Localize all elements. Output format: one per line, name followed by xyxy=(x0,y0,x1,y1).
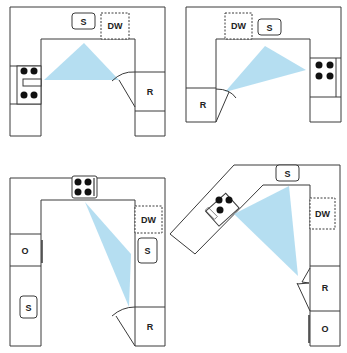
door-arc xyxy=(297,268,310,284)
dishwasher-label: DW xyxy=(231,21,246,31)
door-swing xyxy=(116,316,135,346)
dishwasher-label: DW xyxy=(108,21,123,31)
sink-label: S xyxy=(266,23,272,33)
door-arc xyxy=(112,307,135,316)
door-swing xyxy=(216,92,229,122)
sink-label: S xyxy=(80,17,86,27)
dishwasher-label: DW xyxy=(141,215,156,225)
sink-label: S xyxy=(284,169,290,179)
oven-label: O xyxy=(21,246,28,256)
refrigerator-label: R xyxy=(322,283,329,293)
door-swing xyxy=(297,283,310,311)
work-triangle xyxy=(225,46,306,92)
layout-u-shape-top-left: S DW R xyxy=(10,7,165,136)
refrigerator-label: R xyxy=(200,100,207,110)
layout-angled-bottom-right: S DW R O xyxy=(170,165,340,346)
sink-label: S xyxy=(144,246,150,256)
diagram-canvas: S DW R DW S xyxy=(0,0,347,353)
door-swing xyxy=(119,80,135,107)
door-arc xyxy=(216,89,236,98)
layout-u-shape-top-right: DW S R xyxy=(186,7,341,122)
oven-label: O xyxy=(321,324,328,334)
counter-outline xyxy=(170,165,340,346)
refrigerator-label: R xyxy=(147,87,154,97)
work-triangle xyxy=(85,202,131,307)
layout-u-shape-bottom-left: DW S O S R xyxy=(10,176,165,346)
work-triangle xyxy=(44,43,119,80)
kitchen-layouts-diagram: S DW R DW S xyxy=(0,0,347,353)
dishwasher-label: DW xyxy=(315,209,330,219)
sink-label: S xyxy=(25,303,31,313)
refrigerator-label: R xyxy=(147,322,154,332)
cooktop-control xyxy=(23,79,41,86)
